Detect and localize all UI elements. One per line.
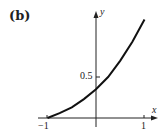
plot-area [0,0,164,131]
x-tick-neg1: −1 [38,120,49,131]
y-axis-label: y [100,6,104,17]
x-axis-arrow-icon [151,116,158,121]
x-axis-label: x [152,104,156,115]
y-tick-half: 0.5 [80,70,93,81]
y-axis-arrow-icon [94,11,99,18]
x-tick-1: 1 [141,120,146,131]
